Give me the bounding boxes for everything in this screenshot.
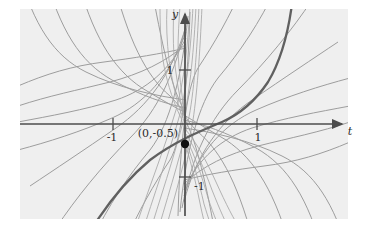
x-axis-label: t — [348, 125, 353, 138]
x-tick-label-pos1: 1 — [255, 131, 262, 144]
figure-container: y t -1 1 1 -1 (0,-0.5) — [0, 0, 368, 229]
y-axis-label: y — [171, 8, 179, 21]
x-tick-label-neg1: -1 — [107, 131, 118, 144]
slope-field-plot: y t -1 1 1 -1 (0,-0.5) — [0, 0, 368, 229]
initial-condition-label: (0,-0.5) — [138, 127, 178, 140]
y-tick-label-pos1: 1 — [167, 64, 174, 77]
initial-condition-point — [181, 140, 189, 148]
y-tick-label-neg1: -1 — [194, 180, 205, 193]
